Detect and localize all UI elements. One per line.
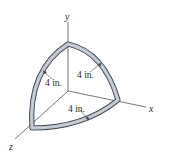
diagram-canvas: y x z 4 in. 4 in. 4 in. xyxy=(0,0,172,159)
z-axis-label: z xyxy=(8,141,13,152)
dimension-label-yz: 4 in. xyxy=(45,78,62,88)
dimension-label-xz: 4 in. xyxy=(68,104,85,114)
y-axis-label: y xyxy=(64,11,70,22)
z-axis xyxy=(15,91,68,139)
dimension-label-xy: 4 in. xyxy=(77,70,94,80)
x-axis-label: x xyxy=(148,103,154,114)
